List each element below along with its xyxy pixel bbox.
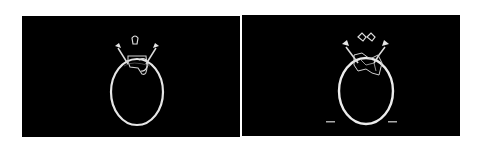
ct-image-left: [22, 16, 240, 137]
skull-scan-left: [22, 16, 240, 137]
skull-scan-right: [242, 15, 460, 136]
scale-marker-right: [388, 121, 397, 123]
scale-marker-left: [326, 121, 335, 123]
ct-image-right: [242, 15, 460, 136]
